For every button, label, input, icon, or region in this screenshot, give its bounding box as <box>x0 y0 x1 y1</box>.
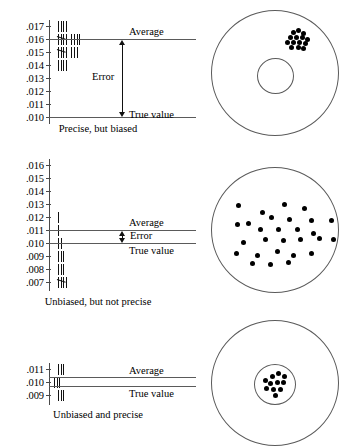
shot-dot <box>302 206 307 211</box>
shot-dot <box>309 218 314 223</box>
tick-mark <box>46 178 51 179</box>
tally-row <box>58 59 71 72</box>
panel1-tick-row: .012 <box>0 85 51 98</box>
panel-unbiased-and-precise: .011 .010 .009 Average True value Unbias… <box>0 360 196 430</box>
tick-label: .011 <box>0 363 46 376</box>
shot-dot <box>289 45 294 50</box>
shot-dot <box>282 202 287 207</box>
error-label: Error <box>92 71 114 82</box>
panel1-tick-row: .014 <box>0 59 51 72</box>
shot-dot <box>291 253 296 258</box>
panel1-tick-row: .016 <box>0 33 51 46</box>
true-value-line <box>49 386 196 387</box>
panel1-caption: Precise, but biased <box>0 123 196 134</box>
tally-row <box>58 276 71 289</box>
tick-label: .007 <box>0 276 46 289</box>
panel3-tick-row: .009 <box>0 389 51 402</box>
shot-dot <box>276 371 281 376</box>
error-arrow <box>118 231 127 243</box>
target-precise-but-biased <box>205 8 345 138</box>
shot-dot <box>271 387 276 392</box>
panel2-tick-row: .007 <box>0 276 51 289</box>
precision-bias-figure: .017 .016 .015 .014 .013 .012 .011 .010 <box>0 0 351 448</box>
panel2-caption: Unbiased, but not precise <box>0 296 196 307</box>
true-value-label: True value <box>129 109 174 121</box>
tick-label: .016 <box>0 33 46 46</box>
tick-mark <box>46 191 51 192</box>
tick-label: .015 <box>0 46 46 59</box>
tick-label: .016 <box>0 159 46 172</box>
tick-mark <box>46 282 51 283</box>
shot-dot <box>268 381 273 386</box>
tick-label: .015 <box>0 172 46 185</box>
panel-unbiased-not-precise: .016 .015 .014 .013 .012 .011 .010 .009 <box>0 155 196 310</box>
tick-mark <box>46 395 51 396</box>
tick-mark <box>46 52 51 53</box>
shot-dot <box>282 374 287 379</box>
shot-dot <box>236 203 241 208</box>
average-label: Average <box>129 365 164 377</box>
panel1-tick-row: .013 <box>0 72 51 85</box>
tick-label: .014 <box>0 59 46 72</box>
tally-group <box>58 21 68 32</box>
shot-dot <box>286 260 291 265</box>
shot-dot <box>241 240 246 245</box>
tick-label: .013 <box>0 198 46 211</box>
outer-ring <box>211 167 339 293</box>
shot-dot <box>301 46 306 51</box>
tally-row <box>58 389 69 402</box>
shot-dot <box>285 40 290 45</box>
true-value-label: True value <box>129 388 174 400</box>
panel2-tick-row: .014 <box>0 185 51 198</box>
tally-group <box>58 212 61 223</box>
shot-dot <box>275 249 280 254</box>
shot-dot <box>250 261 255 266</box>
panel3-tick-row: .011 <box>0 363 51 376</box>
shot-dot <box>268 262 273 267</box>
shot-dot <box>258 227 263 232</box>
panel2-tick-row: .012 <box>0 211 51 224</box>
tally-row <box>58 263 69 276</box>
shot-dot <box>331 237 336 242</box>
tally-group <box>58 277 68 288</box>
tally-row <box>58 211 64 224</box>
target-unbiased-not-precise <box>205 165 345 295</box>
panel2-tick-row: .010 <box>0 237 51 250</box>
tick-mark <box>46 382 51 383</box>
shot-dot <box>278 387 283 392</box>
tally-row <box>58 250 69 263</box>
tick-label: .010 <box>0 237 46 250</box>
shot-dot <box>246 221 251 226</box>
shot-dot <box>287 217 292 222</box>
tick-label: .009 <box>0 389 46 402</box>
tick-mark <box>46 369 51 370</box>
shot-dot <box>295 227 300 232</box>
tick-label: .012 <box>0 211 46 224</box>
shot-dot <box>273 393 278 398</box>
tick-mark <box>46 204 51 205</box>
tick-label: .011 <box>0 224 46 237</box>
tally-group <box>58 47 68 58</box>
tick-mark <box>46 91 51 92</box>
tally-group <box>58 251 66 262</box>
tick-mark <box>46 26 51 27</box>
tick-label: .012 <box>0 85 46 98</box>
panel1-tick-row: .017 <box>0 20 51 33</box>
tick-label: .017 <box>0 20 46 33</box>
tally-group <box>71 47 79 58</box>
tally-row <box>58 46 82 59</box>
tick-mark <box>46 165 51 166</box>
tick-label: .010 <box>0 376 46 389</box>
shot-dot <box>264 386 269 391</box>
tick-label: .008 <box>0 263 46 276</box>
tick-label: .009 <box>0 250 46 263</box>
tick-label: .011 <box>0 98 46 111</box>
panel1-tick-row: .015 <box>0 46 51 59</box>
panel2-tick-row: .009 <box>0 250 51 263</box>
tally-group <box>58 390 66 401</box>
tick-mark <box>46 104 51 105</box>
shot-dot <box>234 251 239 256</box>
tick-mark <box>46 217 51 218</box>
panel2-tick-row: .013 <box>0 198 51 211</box>
panel2-tick-row: .008 <box>0 263 51 276</box>
